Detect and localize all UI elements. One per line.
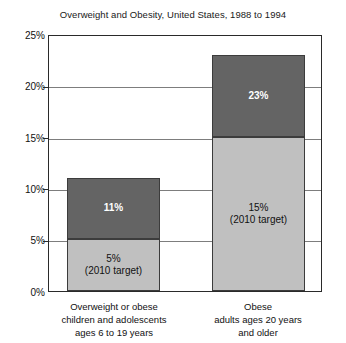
bar-children-segment-lower[interactable]: 5% (2010 target): [67, 239, 160, 291]
bar-children-lower-note: (2010 target): [85, 265, 142, 278]
y-tick-label-5: 5%: [5, 236, 45, 246]
y-tick-label-0: 0%: [5, 288, 45, 298]
y-tick-label-15: 15%: [5, 134, 45, 144]
bar-adults-lower-note: (2010 target): [230, 214, 287, 227]
category-label-adults-line1: Obese: [178, 300, 338, 313]
bar-adults-segment-upper[interactable]: 23%: [212, 55, 305, 137]
bar-children-lower-value: 5%: [106, 253, 120, 266]
bar-adults-lower-value: 15%: [248, 202, 268, 215]
bar-children[interactable]: 11% 5% (2010 target): [67, 178, 160, 291]
category-label-adults-line2: adults ages 20 years: [178, 313, 338, 326]
category-label-adults-line3: and older: [178, 326, 338, 339]
plot-area: 11% 5% (2010 target) 23% 15% (2010 targe…: [48, 35, 322, 292]
category-label-children: Overweight or obese children and adolesc…: [28, 300, 200, 339]
category-label-children-line1: Overweight or obese: [28, 300, 200, 313]
bar-adults[interactable]: 23% 15% (2010 target): [212, 55, 305, 291]
bar-adults-segment-lower[interactable]: 15% (2010 target): [212, 137, 305, 291]
y-tick-label-20: 20%: [5, 82, 45, 92]
chart-title: Overweight and Obesity, United States, 1…: [0, 9, 346, 21]
bar-children-upper-value: 11%: [104, 202, 123, 215]
y-tick-label-10: 10%: [5, 185, 45, 195]
y-tick-label-25: 25%: [5, 31, 45, 41]
category-label-adults: Obese adults ages 20 years and older: [178, 300, 338, 339]
bar-adults-upper-value: 23%: [248, 90, 268, 103]
category-label-children-line2: children and adolescents: [28, 313, 200, 326]
bar-children-segment-upper[interactable]: 11%: [67, 178, 160, 239]
category-label-children-line3: ages 6 to 19 years: [28, 326, 200, 339]
chart-container: Overweight and Obesity, United States, 1…: [0, 0, 346, 343]
